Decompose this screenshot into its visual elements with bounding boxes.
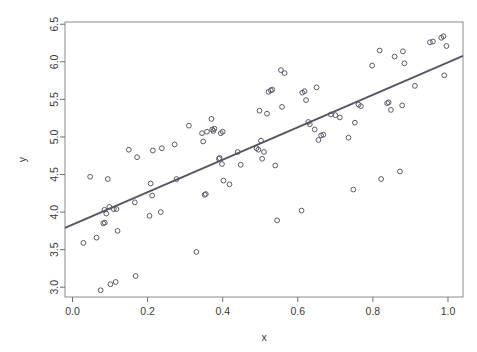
y-tick-label: 6.5 <box>48 17 60 32</box>
regression-line-path <box>65 56 463 228</box>
regression-line <box>65 56 463 228</box>
data-point <box>377 48 382 53</box>
data-point <box>205 129 210 134</box>
data-point <box>444 44 449 49</box>
data-point <box>194 250 199 255</box>
data-point <box>314 85 319 90</box>
data-point <box>389 108 394 113</box>
data-point <box>238 162 243 167</box>
data-point <box>126 147 131 152</box>
data-point <box>88 174 93 179</box>
data-point <box>265 111 270 116</box>
data-point <box>172 142 177 147</box>
data-point <box>351 187 356 192</box>
data-point <box>312 127 317 132</box>
data-point <box>260 156 265 161</box>
x-tick-label: 0.4 <box>215 305 230 317</box>
x-axis-title: x <box>261 331 267 343</box>
data-point <box>220 162 225 167</box>
data-point <box>209 117 214 122</box>
data-point <box>133 274 138 279</box>
y-tick-label: 3.0 <box>48 280 60 295</box>
axis-ticks: 0.00.20.40.60.81.03.03.54.04.55.05.56.06… <box>48 17 456 317</box>
data-point <box>113 280 118 285</box>
data-point <box>273 163 278 168</box>
data-point <box>402 61 407 66</box>
data-point <box>275 218 280 223</box>
y-axis-title: y <box>16 156 28 162</box>
data-point <box>370 63 375 68</box>
data-point <box>201 139 206 144</box>
data-point <box>392 54 397 59</box>
data-point <box>158 210 163 215</box>
data-point <box>346 135 351 140</box>
data-point <box>135 155 140 160</box>
y-tick-label: 4.0 <box>48 205 60 220</box>
data-point <box>98 288 103 293</box>
data-point <box>379 177 384 182</box>
data-point <box>262 150 267 155</box>
data-point <box>431 39 436 44</box>
y-tick-label: 5.0 <box>48 130 60 145</box>
data-point <box>227 182 232 187</box>
data-point <box>413 83 418 88</box>
data-point <box>81 241 86 246</box>
data-point <box>352 120 357 125</box>
data-point <box>187 123 192 128</box>
data-point <box>442 73 447 78</box>
plot-canvas: 0.00.20.40.60.81.03.03.54.04.55.05.56.06… <box>0 0 477 352</box>
data-point <box>221 178 226 183</box>
data-point <box>304 98 309 103</box>
data-point <box>398 169 403 174</box>
scatter-plot-svg: 0.00.20.40.60.81.03.03.54.04.55.05.56.06… <box>0 0 477 352</box>
data-point <box>94 235 99 240</box>
data-point <box>400 103 405 108</box>
data-points <box>81 34 449 293</box>
data-point <box>299 208 304 213</box>
data-point <box>150 148 155 153</box>
data-point <box>115 228 120 233</box>
x-tick-label: 0.2 <box>140 305 155 317</box>
data-point <box>280 105 285 110</box>
data-point <box>200 131 205 136</box>
data-point <box>147 213 152 218</box>
x-tick-label: 1.0 <box>441 305 456 317</box>
y-tick-label: 4.5 <box>48 167 60 182</box>
data-point <box>282 71 287 76</box>
data-point <box>132 200 137 205</box>
data-point <box>316 138 321 143</box>
y-tick-label: 6.0 <box>48 54 60 69</box>
x-tick-label: 0.6 <box>290 305 305 317</box>
y-tick-label: 5.5 <box>48 92 60 107</box>
y-tick-label: 3.5 <box>48 242 60 257</box>
data-point <box>159 146 164 151</box>
data-point <box>337 115 342 120</box>
data-point <box>148 181 153 186</box>
data-point <box>150 193 155 198</box>
data-point <box>257 108 262 113</box>
data-point <box>105 177 110 182</box>
x-tick-label: 0.8 <box>366 305 381 317</box>
x-tick-label: 0.0 <box>65 305 80 317</box>
data-point <box>108 282 113 287</box>
data-point <box>401 49 406 54</box>
